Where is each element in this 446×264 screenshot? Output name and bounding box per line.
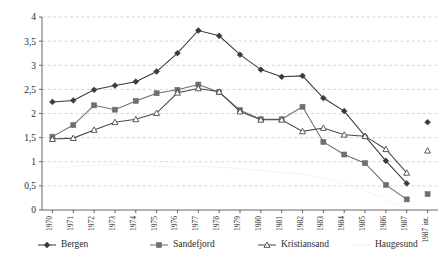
- y-axis-label: 3: [31, 61, 36, 71]
- legend-label: Bergen: [61, 239, 89, 249]
- x-axis-label: 1982: [296, 216, 305, 231]
- x-axis-label: 1981: [275, 216, 284, 231]
- x-axis-label: 1970: [45, 216, 54, 231]
- x-axis-label: 1972: [87, 216, 96, 231]
- data-point-marker: [112, 83, 118, 89]
- y-axis-label: 0: [31, 205, 36, 215]
- y-axis-label: 0,5: [24, 181, 36, 191]
- x-axis-label: 1983: [316, 216, 325, 231]
- x-axis-label: 1984: [337, 216, 346, 231]
- x-axis-label: 1978: [212, 216, 221, 231]
- chart-canvas: 00,511,522,533,54 1970197119721973197419…: [0, 0, 446, 264]
- data-point-marker: [279, 74, 285, 80]
- x-axis-label: 1977: [191, 216, 200, 231]
- data-point-marker: [154, 91, 159, 96]
- legend-item-kristiansand[interactable]: Kristiansand: [258, 239, 329, 249]
- x-axis-label: 1985: [358, 216, 367, 231]
- data-point-marker: [321, 139, 326, 144]
- legend-item-bergen[interactable]: Bergen: [38, 239, 89, 249]
- x-axis-label: 1987: [400, 216, 409, 231]
- x-axis-label: 1976: [170, 216, 179, 231]
- data-point-marker: [425, 148, 431, 153]
- data-point-marker: [404, 197, 409, 202]
- data-point-marker: [425, 192, 430, 197]
- data-point-marker: [133, 98, 138, 103]
- x-axis-label: 1973: [108, 216, 117, 231]
- gridlines-group: [42, 17, 438, 186]
- x-axis-label: 1974: [129, 216, 138, 231]
- series-sandefjord: [50, 82, 409, 202]
- data-point-marker: [112, 107, 117, 112]
- data-point-marker: [157, 243, 162, 248]
- x-axis-label: 1986: [379, 216, 388, 231]
- legend-label: Sandefjord: [173, 239, 215, 249]
- data-point-marker: [44, 242, 50, 248]
- data-point-marker: [133, 79, 139, 85]
- y-axis-label: 2,5: [24, 85, 36, 95]
- endpoint-kristiansand: [425, 148, 431, 153]
- y-axis-label: 2: [31, 109, 36, 119]
- y-axis-tick-labels: 00,511,522,533,54: [24, 12, 36, 215]
- line-chart: 00,511,522,533,54 1970197119721973197419…: [0, 0, 446, 264]
- x-axis-label: 1980: [254, 216, 263, 231]
- y-axis-label: 3,5: [24, 37, 36, 47]
- data-point-marker: [71, 123, 76, 128]
- data-point-marker: [383, 182, 388, 187]
- y-axis-label: 1,5: [24, 133, 36, 143]
- data-point-marker: [383, 146, 389, 151]
- x-axis-label: 1975: [150, 216, 159, 231]
- y-axis-label: 4: [31, 12, 36, 22]
- legend-label: Haugesund: [375, 239, 418, 249]
- legend-label: Kristiansand: [281, 239, 329, 249]
- x-axis-label: 1987 int.: [421, 216, 430, 243]
- x-axis-tick-labels: 1970197119721973197419751976197719781979…: [45, 216, 429, 243]
- endpoint-markers-group: [425, 119, 431, 196]
- data-point-marker: [363, 161, 368, 166]
- data-point-marker: [50, 99, 56, 105]
- data-point-marker: [300, 104, 305, 109]
- endpoint-sandefjord: [425, 192, 430, 197]
- chart-legend: BergenSandefjordKristiansandHaugesund: [38, 239, 418, 249]
- data-point-marker: [320, 125, 326, 130]
- data-point-marker: [91, 87, 97, 93]
- data-point-marker: [92, 103, 97, 108]
- x-axis-label: 1979: [233, 216, 242, 231]
- series-line: [52, 31, 406, 184]
- endpoint-bergen: [425, 119, 431, 125]
- series-line: [52, 88, 406, 172]
- data-series-group: [49, 28, 409, 208]
- legend-item-haugesund[interactable]: Haugesund: [352, 239, 418, 249]
- data-point-marker: [425, 119, 431, 125]
- legend-item-sandefjord[interactable]: Sandefjord: [150, 239, 215, 249]
- y-axis-label: 1: [31, 157, 36, 167]
- x-axis-label: 1971: [66, 216, 75, 231]
- data-point-marker: [342, 152, 347, 157]
- data-point-marker: [70, 98, 76, 104]
